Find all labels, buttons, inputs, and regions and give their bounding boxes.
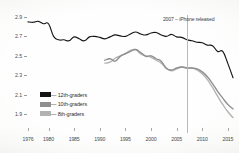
legend-swatch-8th-graders — [40, 111, 51, 116]
legend-label-8th-graders: — 8th-graders — [51, 111, 84, 117]
x-axis-tick-label: 1980 — [39, 136, 59, 142]
y-axis-tick-label: 2.1 — [8, 92, 22, 98]
y-axis-tick-label: 2.3 — [8, 72, 22, 78]
x-axis-tick — [202, 128, 203, 131]
series-line-12th-graders — [28, 21, 233, 77]
series-line-8th-graders — [105, 49, 233, 117]
legend-item-10th-graders: — 10th-graders — [40, 100, 87, 110]
y-axis-tick — [24, 17, 27, 18]
y-axis-tick-label: 2.5 — [8, 53, 22, 59]
y-axis-tick-label: 2.7 — [8, 33, 22, 39]
x-axis-tick — [74, 128, 75, 131]
x-axis-tick — [151, 128, 152, 131]
y-axis-tick-label: 1.9 — [8, 111, 22, 117]
chart-figure: 2.92.72.52.32.11.9 197619801985199019952… — [0, 0, 239, 153]
x-axis-tick — [49, 128, 50, 131]
x-axis-tick-label: 1976 — [18, 136, 38, 142]
iphone-release-vline — [187, 15, 188, 133]
x-axis-tick — [177, 128, 178, 131]
y-axis-tick-label: 2.9 — [8, 14, 22, 20]
legend-item-8th-graders: — 8th-graders — [40, 109, 87, 119]
y-axis-tick — [24, 36, 27, 37]
x-axis-tick-label: 2005 — [167, 136, 187, 142]
legend-swatch-12th-graders — [40, 92, 51, 97]
iphone-release-label: 2007 – iPhone released — [163, 16, 215, 22]
legend-swatch-10th-graders — [40, 102, 51, 107]
y-axis-tick — [24, 56, 27, 57]
x-axis-tick-label: 1985 — [64, 136, 84, 142]
x-axis-tick-label: 2015 — [218, 136, 238, 142]
y-axis-tick — [24, 95, 27, 96]
legend-label-10th-graders: — 10th-graders — [51, 101, 87, 107]
x-axis-tick — [100, 128, 101, 131]
x-axis-tick-label: 2000 — [141, 136, 161, 142]
y-axis-tick — [24, 114, 27, 115]
x-axis-tick-label: 1995 — [115, 136, 135, 142]
legend-item-12th-graders: — 12th-graders — [40, 90, 87, 100]
series-line-10th-graders — [105, 50, 233, 109]
x-axis-tick — [125, 128, 126, 131]
x-axis-tick-label: 1990 — [90, 136, 110, 142]
legend-label-12th-graders: — 12th-graders — [51, 92, 87, 98]
x-axis-tick — [228, 128, 229, 131]
y-axis-tick — [24, 75, 27, 76]
x-axis-tick — [28, 128, 29, 131]
x-axis-tick-label: 2010 — [192, 136, 212, 142]
chart-legend: — 12th-graders — 10th-graders — 8th-grad… — [40, 90, 87, 119]
